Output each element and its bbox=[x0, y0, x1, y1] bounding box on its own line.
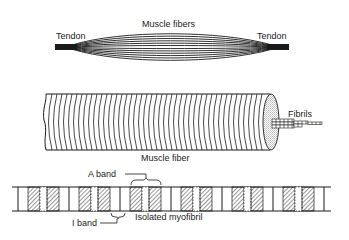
a-band-bracket bbox=[125, 174, 161, 185]
z-lines bbox=[18, 187, 324, 211]
fiber-outline bbox=[44, 94, 270, 150]
label-fibrils: Fibrils bbox=[288, 110, 312, 119]
muscle-structure-diagram: Muscle fibers Tendon Tendon Fibrils Musc… bbox=[0, 0, 349, 240]
fibrils-protruding bbox=[272, 119, 322, 128]
label-tendon-right: Tendon bbox=[257, 32, 287, 41]
label-muscle-fibers: Muscle fibers bbox=[142, 20, 195, 29]
label-isolated-myofibril: Isolated myofibril bbox=[135, 213, 203, 222]
muscle-panel bbox=[55, 34, 289, 61]
label-muscle-fiber: Muscle fiber bbox=[141, 154, 190, 163]
muscle-fiber-panel bbox=[44, 94, 322, 150]
i-band-bracket bbox=[100, 213, 125, 223]
label-tendon-left: Tendon bbox=[56, 32, 86, 41]
muscle-fibers-bundle bbox=[72, 34, 272, 61]
label-a-band: A band bbox=[88, 170, 116, 179]
label-i-band: I band bbox=[72, 219, 97, 228]
